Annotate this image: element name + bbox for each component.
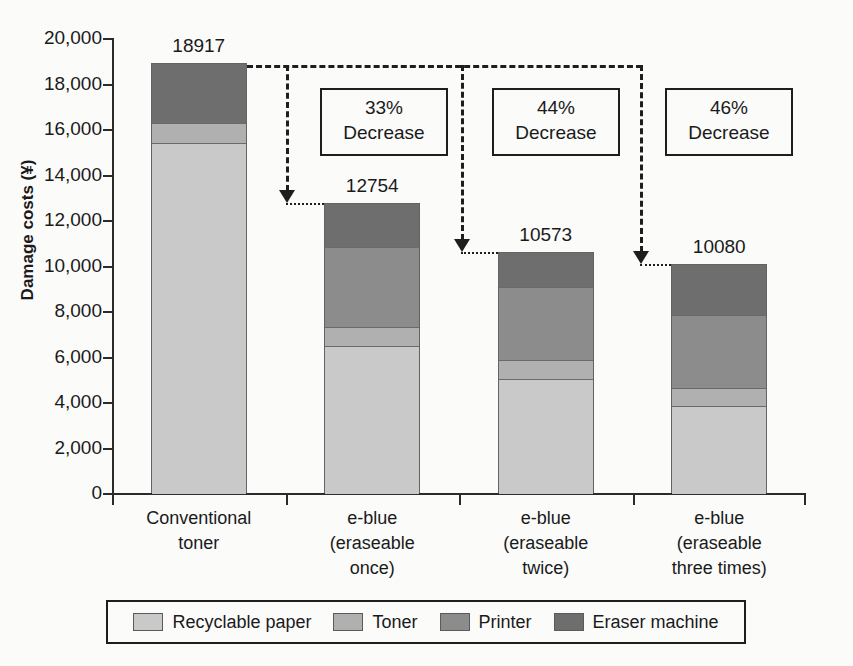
bar-segment[interactable] [499, 360, 593, 379]
y-tick-label: 8,000 [10, 301, 102, 320]
legend-swatch [554, 613, 584, 631]
decrease-percent: 46% [667, 95, 791, 120]
x-category-label: e-blue(eraseablethree times) [634, 506, 804, 581]
decrease-percent: 33% [322, 95, 446, 120]
stacked-bar[interactable] [498, 252, 594, 493]
annotation-arrowhead [633, 251, 649, 264]
y-tick-label: 0 [10, 483, 102, 502]
y-axis-line [112, 38, 114, 493]
bar-segment[interactable] [672, 315, 766, 388]
legend-label: Toner [372, 612, 417, 633]
x-category-label: e-blue(eraseabletwice) [461, 506, 631, 581]
x-category-line: e-blue [461, 506, 631, 531]
stacked-bar[interactable] [671, 264, 767, 493]
x-category-label: e-blue(eraseableonce) [287, 506, 457, 581]
bar-total-label: 18917 [119, 35, 279, 57]
y-tick-mark [103, 493, 112, 495]
x-category-line: (eraseable [634, 531, 804, 556]
legend-item[interactable]: Printer [440, 612, 532, 633]
annotation-drop-line [286, 65, 289, 191]
x-tick-mark [112, 495, 114, 505]
stacked-bar[interactable] [151, 63, 247, 493]
legend-item[interactable]: Recyclable paper [133, 612, 311, 633]
annotation-level-line [461, 252, 498, 254]
y-tick-label: 12,000 [10, 210, 102, 229]
bar-segment[interactable] [325, 327, 419, 346]
y-tick-mark [103, 266, 112, 268]
y-tick-mark [103, 311, 112, 313]
annotation-drop-line [640, 65, 643, 252]
y-tick-mark [103, 402, 112, 404]
y-tick-mark [103, 357, 112, 359]
bar-total-label: 10573 [466, 224, 626, 246]
x-tick-mark [633, 495, 635, 505]
legend-label: Printer [479, 612, 532, 633]
bar-segment[interactable] [672, 265, 766, 315]
chart-figure: Damage costs (¥) 20,00018,00016,00014,00… [0, 0, 853, 666]
y-tick-mark [103, 84, 112, 86]
y-tick-label: 18,000 [10, 74, 102, 93]
annotation-drop-line [461, 65, 464, 241]
y-tick-label: 2,000 [10, 438, 102, 457]
bar-segment[interactable] [152, 64, 246, 123]
x-category-line: once) [287, 556, 457, 581]
x-tick-mark [459, 495, 461, 505]
y-tick-mark [103, 38, 112, 40]
y-tick-label: 10,000 [10, 256, 102, 275]
bar-segment[interactable] [325, 247, 419, 327]
x-category-line: (eraseable [287, 531, 457, 556]
bar-total-label: 10080 [639, 236, 799, 258]
x-category-line: e-blue [287, 506, 457, 531]
bar-segment[interactable] [152, 143, 246, 494]
bar-segment[interactable] [325, 346, 419, 494]
legend-swatch [333, 613, 363, 631]
bar-segment[interactable] [152, 123, 246, 143]
bar-segment[interactable] [499, 287, 593, 360]
annotation-arrowhead [454, 239, 470, 252]
y-tick-label: 14,000 [10, 165, 102, 184]
bar-segment[interactable] [499, 379, 593, 494]
bar-total-label: 12754 [292, 175, 452, 197]
x-category-line: (eraseable [461, 531, 631, 556]
decrease-word: Decrease [322, 120, 446, 145]
annotation-trunk-line [247, 65, 642, 68]
x-tick-mark [286, 495, 288, 505]
legend-label: Eraser machine [593, 612, 719, 633]
legend-item[interactable]: Eraser machine [554, 612, 719, 633]
decrease-word: Decrease [667, 120, 791, 145]
y-tick-label: 6,000 [10, 347, 102, 366]
y-tick-mark [103, 448, 112, 450]
legend-label: Recyclable paper [172, 612, 311, 633]
stacked-bar[interactable] [324, 203, 420, 493]
x-category-line: three times) [634, 556, 804, 581]
y-tick-mark [103, 129, 112, 131]
decrease-callout: 44%Decrease [492, 88, 620, 156]
x-category-line: Conventional [114, 506, 284, 531]
legend-swatch [133, 613, 163, 631]
x-category-line: twice) [461, 556, 631, 581]
decrease-word: Decrease [494, 120, 618, 145]
y-tick-label: 16,000 [10, 119, 102, 138]
x-category-line: toner [114, 531, 284, 556]
annotation-level-line [640, 264, 671, 266]
decrease-callout: 33%Decrease [320, 88, 448, 156]
x-category-label: Conventionaltoner [114, 506, 284, 556]
y-axis-tick-labels: 20,00018,00016,00014,00012,00010,0008,00… [10, 0, 102, 666]
y-tick-mark [103, 220, 112, 222]
y-tick-label: 4,000 [10, 392, 102, 411]
legend-swatch [440, 613, 470, 631]
decrease-callout: 46%Decrease [665, 88, 793, 156]
chart-legend: Recyclable paperTonerPrinterEraser machi… [106, 600, 746, 644]
y-tick-label: 20,000 [10, 28, 102, 47]
bar-segment[interactable] [672, 388, 766, 407]
decrease-percent: 44% [494, 95, 618, 120]
x-category-line: e-blue [634, 506, 804, 531]
legend-item[interactable]: Toner [333, 612, 417, 633]
y-tick-mark [103, 175, 112, 177]
annotation-arrowhead [279, 190, 295, 203]
annotation-level-line [286, 203, 324, 205]
x-tick-mark [804, 495, 806, 505]
bar-segment[interactable] [325, 204, 419, 247]
bar-segment[interactable] [499, 253, 593, 287]
bar-segment[interactable] [672, 406, 766, 494]
